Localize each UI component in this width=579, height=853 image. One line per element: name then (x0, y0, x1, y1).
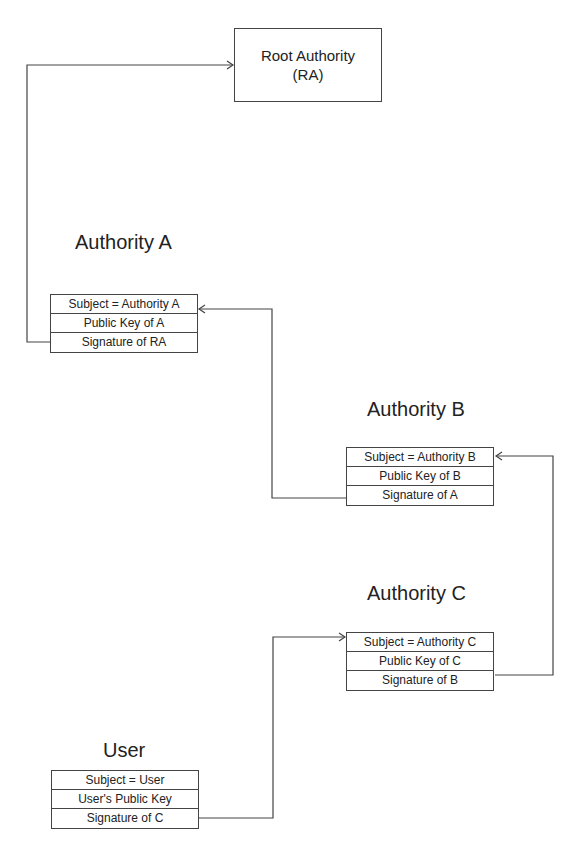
cert-public-key: User's Public Key (52, 790, 198, 809)
root-authority-abbrev: (RA) (293, 65, 324, 84)
cert-subject: Subject = Authority B (347, 448, 493, 467)
authority-c-certificate: Subject = Authority C Public Key of C Si… (346, 632, 494, 691)
cert-public-key: Public Key of A (51, 314, 197, 333)
authority-b-certificate: Subject = Authority B Public Key of B Si… (346, 447, 494, 506)
user-certificate: Subject = User User's Public Key Signatu… (51, 770, 199, 829)
arrow-b-to-a (199, 309, 346, 498)
cert-signature: Signature of A (347, 486, 493, 505)
cert-signature: Signature of B (347, 671, 493, 690)
cert-signature: Signature of C (52, 809, 198, 828)
connector-lines (0, 0, 579, 853)
cert-subject: Subject = Authority A (51, 295, 197, 314)
authority-c-title: Authority C (367, 582, 466, 605)
arrow-c-to-b (495, 456, 553, 675)
cert-public-key: Public Key of B (347, 467, 493, 486)
authority-a-certificate: Subject = Authority A Public Key of A Si… (50, 294, 198, 353)
cert-subject: Subject = Authority C (347, 633, 493, 652)
user-title: User (103, 739, 145, 762)
authority-a-title: Authority A (75, 231, 172, 254)
cert-signature: Signature of RA (51, 333, 197, 352)
cert-subject: Subject = User (52, 771, 198, 790)
root-authority-name: Root Authority (261, 46, 355, 65)
cert-public-key: Public Key of C (347, 652, 493, 671)
arrow-user-to-c (199, 637, 345, 818)
authority-b-title: Authority B (367, 398, 465, 421)
root-authority-box: Root Authority (RA) (234, 28, 382, 102)
